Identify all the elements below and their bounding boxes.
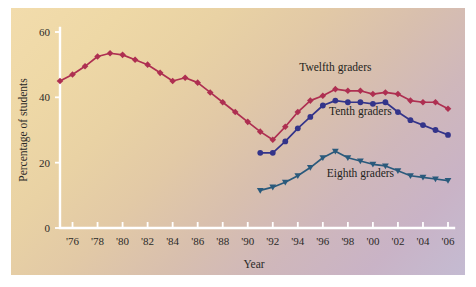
data-point-marker <box>357 99 363 105</box>
y-tick-label: 0 <box>45 222 51 234</box>
data-point-marker <box>357 88 364 95</box>
series-annotation-label: Tenth graders <box>329 105 392 118</box>
data-point-marker <box>383 99 389 105</box>
line-chart: 0204060Percentage of students'76'78'80'8… <box>11 8 465 275</box>
series-annotation-label: Twelfth graders <box>299 61 372 74</box>
x-tick-label: '88 <box>216 235 229 247</box>
data-point-marker <box>370 91 377 98</box>
data-point-marker <box>420 122 426 128</box>
data-point-marker <box>345 99 351 105</box>
data-point-marker <box>320 92 327 99</box>
x-axis-title: Year <box>243 258 264 270</box>
y-axis: 0204060 <box>39 26 60 234</box>
data-point-marker <box>57 78 64 85</box>
x-tick-label: '90 <box>241 235 254 247</box>
data-point-marker <box>182 74 189 81</box>
data-point-marker <box>408 117 414 123</box>
data-point-marker <box>257 150 263 156</box>
data-point-marker <box>395 109 401 115</box>
series-twelfth-graders <box>57 50 452 143</box>
data-point-marker <box>119 52 126 59</box>
x-tick-label: '84 <box>166 235 179 247</box>
data-point-marker <box>270 150 276 156</box>
x-tick-label: '98 <box>341 235 354 247</box>
x-tick-label: '76 <box>66 235 79 247</box>
data-point-marker <box>132 56 139 63</box>
data-point-marker <box>257 188 264 194</box>
x-tick-label: '82 <box>141 235 154 247</box>
data-point-marker <box>282 139 288 145</box>
data-point-marker <box>307 114 313 120</box>
y-axis-title: Percentage of students <box>17 78 30 182</box>
data-point-marker <box>445 105 452 112</box>
data-point-marker <box>432 99 439 106</box>
x-axis: '76'78'80'82'84'86'88'90'92'94'96'98'00'… <box>66 222 455 247</box>
x-tick-label: '94 <box>291 235 304 247</box>
x-tick-label: '02 <box>391 235 404 247</box>
x-tick-label: '78 <box>91 235 104 247</box>
data-point-marker <box>395 91 402 98</box>
x-tick-label: '80 <box>116 235 129 247</box>
data-point-marker <box>433 127 439 133</box>
y-tick-label: 60 <box>39 26 51 38</box>
x-tick-label: '06 <box>442 235 455 247</box>
data-point-marker <box>382 89 389 96</box>
x-tick-label: '86 <box>191 235 204 247</box>
data-point-marker <box>345 88 352 95</box>
y-tick-label: 20 <box>39 157 51 169</box>
x-tick-label: '04 <box>416 235 429 247</box>
chart-figure: 0204060Percentage of students'76'78'80'8… <box>0 0 476 287</box>
data-point-marker <box>332 86 339 93</box>
data-point-marker <box>407 97 414 104</box>
data-point-marker <box>320 103 326 109</box>
chart-plot-area: 0204060Percentage of students'76'78'80'8… <box>11 8 465 275</box>
x-tick-label: '92 <box>266 235 279 247</box>
data-point-marker <box>295 125 301 131</box>
x-tick-label: '96 <box>316 235 329 247</box>
data-point-marker <box>332 98 338 104</box>
data-point-marker <box>445 132 451 138</box>
x-tick-label: '00 <box>366 235 379 247</box>
y-tick-label: 40 <box>39 91 51 103</box>
data-point-marker <box>107 50 114 57</box>
series-line <box>60 53 448 140</box>
data-point-marker <box>420 99 427 106</box>
series-annotation-label: Eighth graders <box>327 167 395 180</box>
